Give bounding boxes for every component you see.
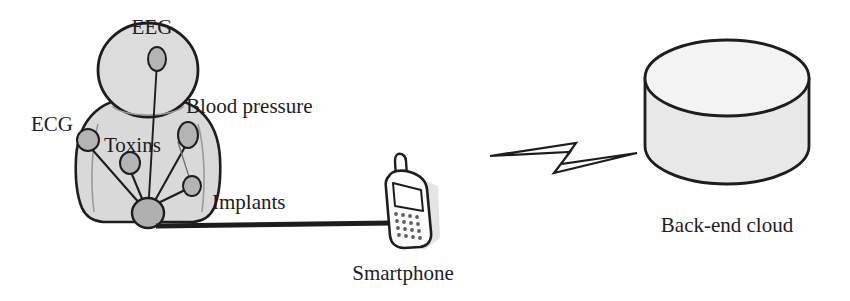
label-toxins: Toxins <box>104 133 161 157</box>
label-implants: Implants <box>212 190 286 214</box>
human-body-group <box>76 23 221 228</box>
sensor-node-blood-pressure[interactable] <box>178 122 198 148</box>
back-end-cloud-cylinder[interactable] <box>645 40 809 184</box>
diagram-canvas: EEG ECG Blood pressure Toxins Implants S… <box>0 0 850 301</box>
sensor-node-eeg[interactable] <box>148 47 166 71</box>
sensor-node-ecg[interactable] <box>77 129 99 151</box>
label-smartphone: Smartphone <box>352 261 453 285</box>
diagram-root: EEG ECG Blood pressure Toxins Implants S… <box>0 0 850 301</box>
label-back-end-cloud: Back-end cloud <box>661 213 794 237</box>
label-ecg: ECG <box>31 112 73 136</box>
label-blood-pressure: Blood pressure <box>186 94 313 118</box>
wireless-link-lightning-icon <box>490 143 637 173</box>
cylinder-top <box>645 40 809 116</box>
wired-link-body-to-phone <box>156 223 392 226</box>
label-eeg: EEG <box>132 15 173 39</box>
sensor-node-implants[interactable] <box>183 176 201 196</box>
smartphone-group[interactable] <box>386 154 440 250</box>
